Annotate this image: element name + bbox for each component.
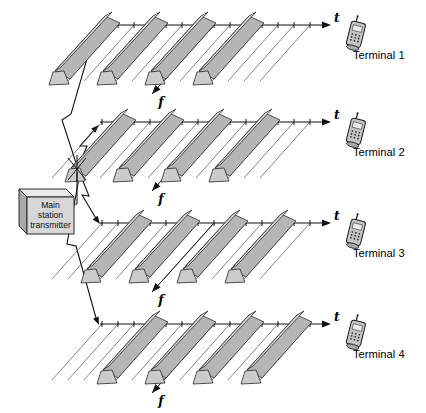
transmitter-label-line1: Main xyxy=(41,200,60,210)
tdma-broadcast-diagram: tfTerminal 1tfTerminal 2tfTerminal 3tfTe… xyxy=(0,0,426,413)
terminal-label: Terminal 1 xyxy=(353,49,405,61)
mobile-phone-icon xyxy=(345,111,368,149)
lightning-bolt-icon xyxy=(81,176,97,220)
terminal-rows-layer: tfTerminal 1tfTerminal 2tfTerminal 3tfTe… xyxy=(49,10,405,408)
mobile-phone-icon xyxy=(345,14,368,52)
time-axis-label: t xyxy=(334,107,340,122)
terminal-label: Terminal 3 xyxy=(353,247,405,259)
time-axis-arrowhead xyxy=(322,321,331,328)
frequency-axis-label: f xyxy=(157,292,166,307)
transmitter-label-line2: station xyxy=(38,210,64,220)
time-axis-label: t xyxy=(334,10,340,25)
bolt-arrowhead xyxy=(93,216,100,224)
frequency-axis-label: f xyxy=(157,191,166,206)
slot-boundary-line xyxy=(260,25,310,81)
main-station-transmitter: Main station transmitter xyxy=(19,189,74,234)
bolt-arrowhead xyxy=(93,316,99,325)
box-side-face xyxy=(19,189,27,234)
frequency-axis-label: f xyxy=(157,393,166,408)
time-axis-label: t xyxy=(334,208,340,223)
transmitter-label-line3: transmitter xyxy=(30,220,71,230)
terminal-row-1: tfTerminal 1 xyxy=(49,10,405,109)
terminal-label: Terminal 4 xyxy=(353,348,405,360)
mobile-phone-icon xyxy=(345,212,368,250)
terminal-row-2: tfTerminal 2 xyxy=(52,107,405,206)
terminal-row-4: tfTerminal 4 xyxy=(52,309,405,408)
box-top-face xyxy=(19,189,74,197)
time-axis-arrowhead xyxy=(322,119,331,126)
diagram-canvas: tfTerminal 1tfTerminal 2tfTerminal 3tfTe… xyxy=(0,0,426,413)
terminal-row-3: tfTerminal 3 xyxy=(52,208,405,307)
time-axis-label: t xyxy=(334,309,340,324)
terminal-label: Terminal 2 xyxy=(353,146,405,158)
time-axis-arrowhead xyxy=(322,220,331,227)
slot-boundary-line xyxy=(52,324,102,380)
mobile-phone-icon xyxy=(345,313,368,351)
time-axis-arrowhead xyxy=(322,22,331,29)
frequency-axis-label: f xyxy=(157,94,166,109)
